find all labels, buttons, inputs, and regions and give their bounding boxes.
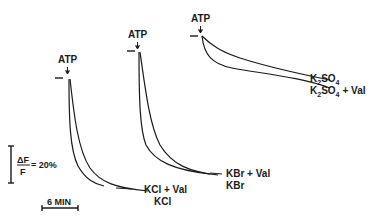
panel-kbr: ATP KBr + Val KBr	[127, 29, 270, 191]
f-label: F	[20, 167, 26, 177]
trace-kcl	[70, 79, 148, 191]
percent-label: = 20%	[31, 160, 57, 170]
atp-label-2: ATP	[128, 29, 148, 40]
vertical-scale-bar: ΔF F = 20%	[8, 146, 57, 183]
atp-label-1: ATP	[58, 54, 78, 65]
horizontal-scale-bar: 6 MIN	[42, 197, 78, 211]
time-label: 6 MIN	[47, 197, 71, 207]
atp-arrow-1	[66, 67, 70, 74]
label-kcl: KCl	[154, 196, 171, 207]
trace-kbr	[140, 52, 218, 175]
delta-f-label: ΔF	[17, 155, 29, 165]
atp-arrow-2	[136, 42, 140, 49]
atp-label-3: ATP	[191, 13, 211, 24]
panel-kcl: ATP KCl + Val KCl	[55, 54, 187, 207]
panel-k2so4: ATP K2SO4 K2SO4+ Val	[190, 13, 366, 98]
trace-kcl-val	[69, 79, 104, 186]
label-kbr: KBr	[226, 180, 244, 191]
label-k2so4-val: K2SO4+ Val	[310, 85, 366, 98]
label-kcl-val: KCl + Val	[144, 184, 187, 195]
atp-arrow-3	[199, 26, 203, 33]
fluorescence-chart: ATP KCl + Val KCl ATP KBr + Val KBr ATP …	[0, 0, 374, 217]
label-kbr-val: KBr + Val	[226, 168, 270, 179]
